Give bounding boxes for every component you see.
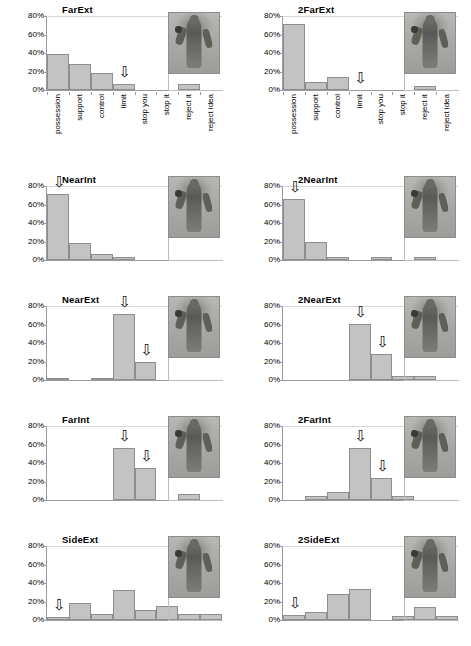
figure-hand [175, 550, 182, 557]
bar-slot [69, 426, 91, 500]
bar [113, 257, 135, 260]
y-axis: 0%20%40%60%80% [0, 410, 44, 502]
y-tick-label: 0% [32, 616, 44, 624]
x-tick-mark [436, 92, 437, 95]
x-label-slot: control [91, 92, 113, 168]
x-label-slot: support [305, 92, 327, 168]
y-axis: 0%20%40%60%80% [236, 0, 280, 92]
x-tick-label: control [98, 94, 106, 118]
x-tick-mark [135, 92, 136, 95]
y-tick-label: 80% [28, 12, 44, 20]
figure-arm-right [438, 28, 449, 48]
x-label-slot: possession [47, 92, 69, 168]
x-tick-label: stop you [377, 94, 385, 124]
x-tick-label: limit [120, 94, 128, 108]
thumbnail-leader-line [404, 478, 459, 501]
figure-head [426, 299, 435, 308]
y-axis: 0%20%40%60%80% [236, 170, 280, 262]
figure-body [187, 422, 202, 472]
figure-panel-grid: FarExt0%20%40%60%80%⇩possessionsupportco… [0, 0, 471, 646]
chart-title: FarExt [62, 4, 93, 15]
bar [69, 64, 91, 90]
x-label-slot: reject idea [200, 92, 222, 168]
y-axis: 0%20%40%60%80% [236, 530, 280, 622]
figure-arm-right [438, 432, 449, 452]
x-tick-label: stop you [141, 94, 149, 124]
figure-arm-right [202, 432, 213, 452]
gesture-thumbnail [404, 12, 456, 74]
x-tick-label: reject idea [207, 94, 215, 131]
gesture-thumbnail [168, 12, 220, 74]
x-tick-mark [349, 92, 350, 95]
y-tick-label: 20% [28, 478, 44, 486]
x-tick-label: limit [356, 94, 364, 108]
thumbnail-leader-line [168, 478, 223, 501]
bar [327, 594, 349, 620]
bar-slot [135, 16, 157, 90]
down-arrow-icon: ⇩ [376, 335, 389, 350]
y-tick-label: 40% [28, 49, 44, 57]
bar [113, 84, 135, 90]
bar [91, 378, 113, 380]
y-tick-label: 80% [264, 542, 280, 550]
x-tick-label: control [334, 94, 342, 118]
bar [283, 199, 305, 260]
down-arrow-icon: ⇩ [119, 65, 132, 80]
chart-title: 2FarInt [298, 414, 331, 425]
figure-head [426, 15, 435, 24]
figure-hand [175, 190, 182, 197]
bar-slot [305, 16, 327, 90]
figure-body [187, 182, 202, 232]
x-tick-mark [47, 92, 48, 95]
figure-body [423, 18, 438, 68]
bar [305, 242, 327, 260]
bar [47, 378, 69, 380]
x-tick-label: support [312, 94, 320, 121]
bar [349, 324, 371, 380]
bar [371, 257, 393, 260]
x-tick-mark [69, 92, 70, 95]
figure-body [423, 302, 438, 352]
bar-slot [371, 186, 393, 260]
x-tick-mark [414, 92, 415, 95]
bar-slot [113, 186, 135, 260]
figure-body [423, 422, 438, 472]
gesture-thumbnail [404, 176, 456, 238]
chart-title: FarInt [62, 414, 90, 425]
bar-slot [305, 306, 327, 380]
bar [135, 468, 157, 500]
bar [305, 612, 327, 620]
x-tick-mark [200, 92, 201, 95]
y-tick-label: 60% [264, 561, 280, 569]
bar-slot [327, 306, 349, 380]
x-tick-mark [371, 92, 372, 95]
bar [371, 478, 393, 500]
bar-slot [91, 186, 113, 260]
y-tick-label: 80% [28, 182, 44, 190]
y-tick-label: 0% [268, 86, 280, 94]
y-tick-label: 40% [28, 459, 44, 467]
figure-arm-right [202, 192, 213, 212]
bar-slot [69, 186, 91, 260]
figure-hand [411, 550, 418, 557]
x-label-slot: stop you [135, 92, 157, 168]
bar-slot [113, 306, 135, 380]
y-tick-label: 20% [28, 238, 44, 246]
x-axis-labels: possessionsupportcontrollimitstop yousto… [283, 92, 458, 168]
figure-hand [411, 430, 418, 437]
y-tick-label: 20% [264, 358, 280, 366]
y-tick-label: 40% [264, 219, 280, 227]
y-tick-label: 20% [264, 598, 280, 606]
bar-slot [135, 186, 157, 260]
bar [91, 614, 113, 620]
bar-slot [283, 16, 305, 90]
figure-head [426, 539, 435, 548]
y-tick-label: 20% [264, 478, 280, 486]
down-arrow-icon: ⇩ [355, 305, 368, 320]
figure-body [187, 302, 202, 352]
x-tick-label: support [76, 94, 84, 121]
y-tick-label: 20% [28, 598, 44, 606]
bar-slot [327, 186, 349, 260]
y-axis: 0%20%40%60%80% [0, 170, 44, 262]
y-tick-label: 0% [32, 256, 44, 264]
